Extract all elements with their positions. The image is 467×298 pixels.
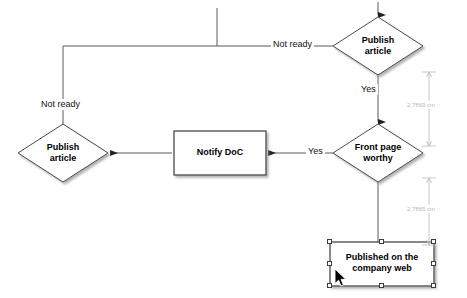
dimension-lines <box>422 72 436 245</box>
edge-label-not-ready-top: Not ready <box>271 39 314 50</box>
resize-handle-top-right[interactable] <box>431 239 436 244</box>
edge-label-yes-vertical: Yes <box>359 84 378 95</box>
node-publish-article-top[interactable] <box>333 17 423 75</box>
edge-label-yes-horizontal: Yes <box>306 146 325 157</box>
edge-label-not-ready-left: Not ready <box>39 99 82 110</box>
connector-group <box>63 2 378 242</box>
resize-handle-bottom-left[interactable] <box>327 283 332 288</box>
resize-handle-middle-right[interactable] <box>431 261 436 266</box>
flowchart-graphics <box>0 0 467 298</box>
resize-handle-top-center[interactable] <box>379 239 384 244</box>
node-notify-doc[interactable] <box>174 131 266 175</box>
resize-handle-bottom-center[interactable] <box>379 283 384 288</box>
resize-handle-top-left[interactable] <box>327 239 332 244</box>
node-published-on-company-web[interactable] <box>330 242 434 286</box>
resize-handle-middle-left[interactable] <box>327 261 332 266</box>
node-publish-article-left[interactable] <box>18 124 108 182</box>
diagram-canvas[interactable]: Publish article Front page worthy Notify… <box>0 0 467 298</box>
dimension-label-lower: 2,7865 cm <box>406 205 436 213</box>
resize-handle-bottom-right[interactable] <box>431 283 436 288</box>
node-front-page-worthy[interactable] <box>333 124 423 182</box>
dimension-label-upper: 2,7869 cm <box>406 101 436 109</box>
